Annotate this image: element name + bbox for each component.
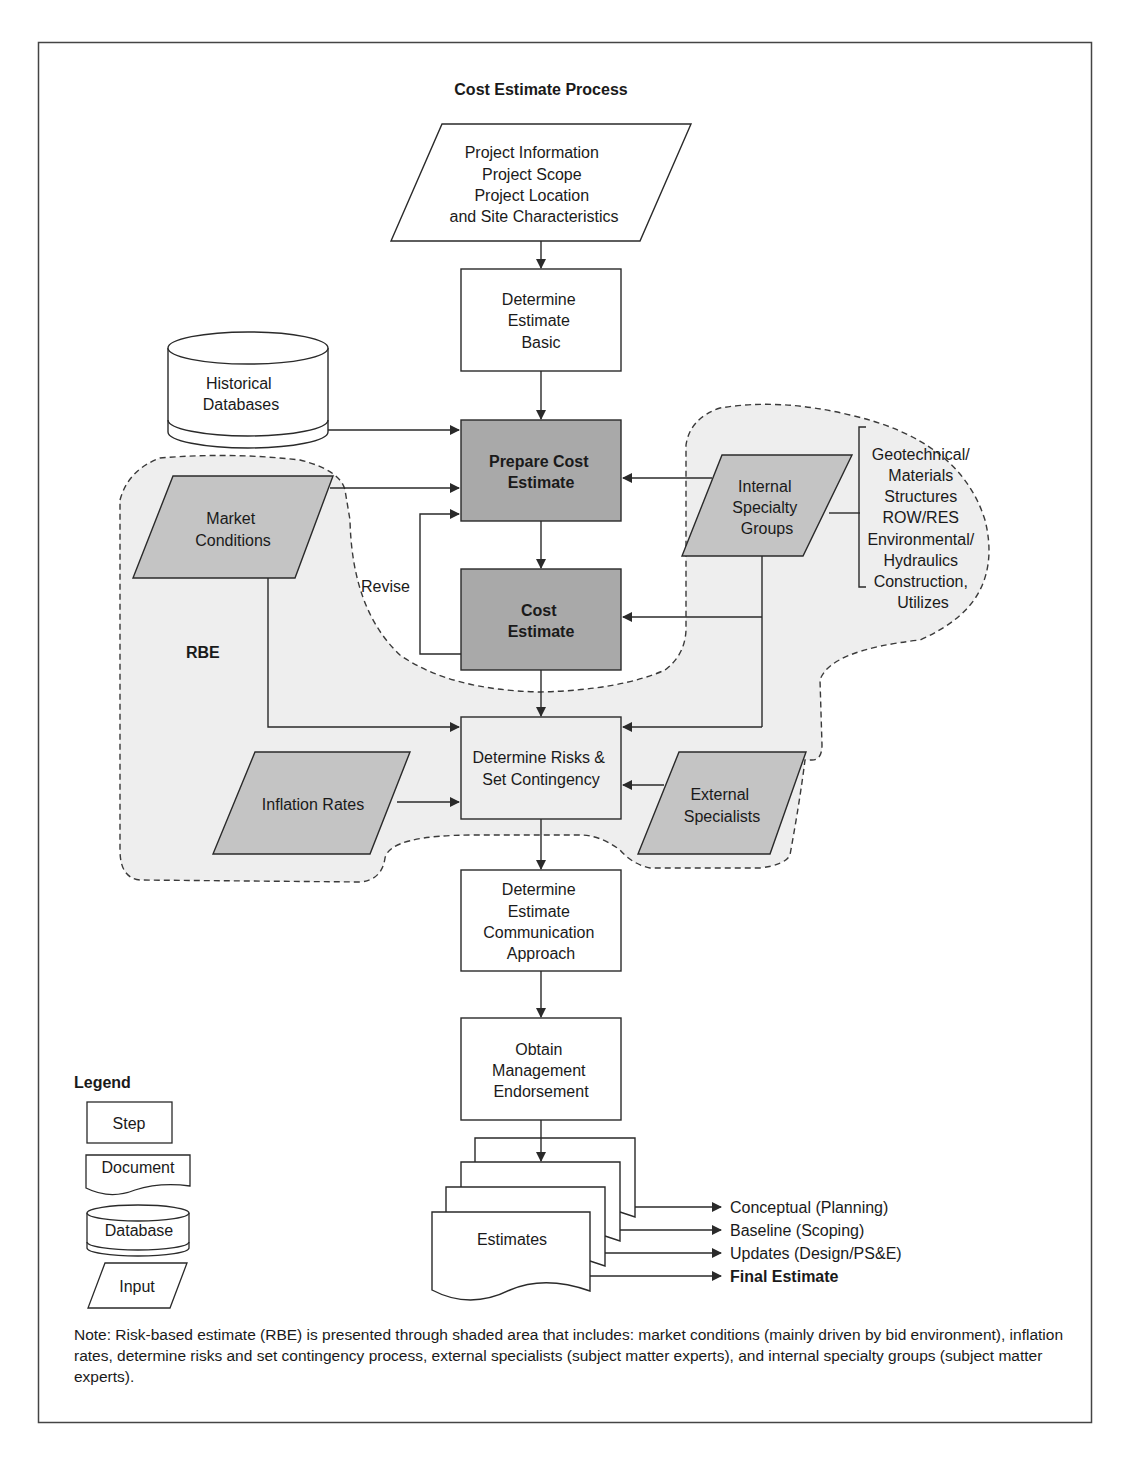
svg-text:Document: Document [102,1159,175,1176]
legend-input: Input [88,1263,187,1308]
output-baseline: Baseline (Scoping) [730,1222,864,1239]
svg-text:Internal Specialty: Internal Specialty Groups [732,478,801,537]
node-cost-estimate: Cost Estimate [461,569,621,670]
diagram-title: Cost Estimate Process [454,81,628,98]
rbe-label: RBE [186,644,220,661]
cost-estimate-flowchart: Cost Estimate Process Project Informatio… [0,0,1130,1460]
output-conceptual: Conceptual (Planning) [730,1199,888,1216]
node-management-endorsement: Obtain Management Endorsement [461,1018,621,1120]
svg-text:Input: Input [119,1278,155,1295]
revise-label: Revise [361,578,410,595]
node-project-information: Project Information Project Scope Projec… [391,124,691,241]
svg-text:Database: Database [105,1222,174,1239]
legend-title: Legend [74,1074,131,1091]
legend-database: Database [87,1205,189,1256]
svg-text:Inflation Rates: Inflation Rates [262,796,364,813]
node-historical-databases: Historical Databases [168,332,328,448]
node-determine-risks: Determine Risks & Set Contingency [461,717,621,819]
node-communication-approach: Determine Estimate Communication Approac… [461,870,621,971]
footnote: Note: Risk-based estimate (RBE) is prese… [74,1324,1084,1387]
node-determine-estimate-basic: Determine Estimate Basic [461,269,621,371]
node-prepare-cost-estimate: Prepare Cost Estimate [461,420,621,521]
output-final-estimate: Final Estimate [730,1268,839,1285]
legend-step: Step [87,1102,172,1143]
output-updates: Updates (Design/PS&E) [730,1245,902,1262]
svg-text:Estimates: Estimates [477,1231,547,1248]
svg-text:Step: Step [113,1115,146,1132]
